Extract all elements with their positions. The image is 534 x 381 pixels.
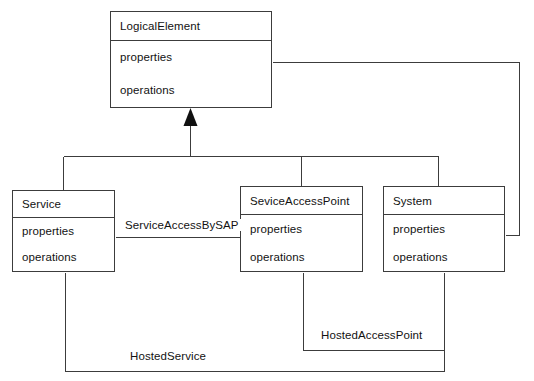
class-attribute: operations xyxy=(120,84,271,97)
class-attributes: properties operations xyxy=(241,215,362,271)
class-attribute: properties xyxy=(120,51,271,64)
class-attribute: operations xyxy=(250,251,362,264)
class-name-header: System xyxy=(384,187,504,215)
class-attribute: properties xyxy=(22,225,114,238)
class-attributes: properties operations xyxy=(13,218,114,271)
class-name-header: Service xyxy=(13,191,114,218)
class-attributes: properties operations xyxy=(111,41,271,107)
class-box-logical-element[interactable]: LogicalElement properties operations xyxy=(110,11,272,108)
class-attributes: properties operations xyxy=(384,215,504,271)
uml-diagram-canvas: LogicalElement properties operations Ser… xyxy=(0,0,534,381)
class-attribute: operations xyxy=(22,251,114,264)
class-attribute: operations xyxy=(393,251,504,264)
generalization-arrowhead xyxy=(184,108,198,126)
relationship-label-hosted-service: HostedService xyxy=(127,350,209,362)
class-attribute: properties xyxy=(393,223,504,236)
class-box-system[interactable]: System properties operations xyxy=(383,186,505,272)
class-name-label: SeviceAccessPoint xyxy=(250,195,350,207)
class-name-label: Service xyxy=(22,198,61,210)
class-box-service[interactable]: Service properties operations xyxy=(12,190,115,272)
class-name-header: SeviceAccessPoint xyxy=(241,187,362,215)
class-name-label: LogicalElement xyxy=(120,20,200,32)
relationship-label-service-access-by-sap: ServiceAccessBySAP xyxy=(122,219,242,231)
class-attribute: properties xyxy=(250,223,362,236)
connector-hosted-service xyxy=(66,273,445,372)
class-name-label: System xyxy=(393,195,432,207)
class-box-sevice-access-point[interactable]: SeviceAccessPoint properties operations xyxy=(240,186,363,272)
relationship-label-hosted-access-point: HostedAccessPoint xyxy=(318,329,425,341)
class-name-header: LogicalElement xyxy=(111,12,271,41)
